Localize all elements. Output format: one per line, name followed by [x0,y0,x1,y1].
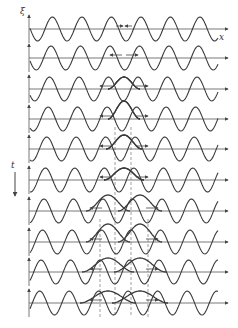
time-step-row [29,135,228,163]
pulse-curve [112,291,168,303]
wave-superposition-diagram: ξ x t [0,0,238,328]
pulse-curve [80,291,136,303]
time-step-row [29,166,228,194]
time-step-row [29,289,228,317]
time-step-row [29,195,228,225]
time-step-row [29,258,228,286]
y-axis-label: ξ [20,6,26,16]
time-step-row [29,101,228,133]
pulse-curve [108,101,140,119]
time-step-row [29,75,228,103]
time-step-row [29,15,228,43]
x-axis-label: x [219,32,224,42]
time-axis-label: t [11,160,15,170]
time-step-rows [29,15,228,317]
pulse-curve [104,168,144,180]
time-step-row [29,224,228,256]
time-step-row [29,44,228,72]
